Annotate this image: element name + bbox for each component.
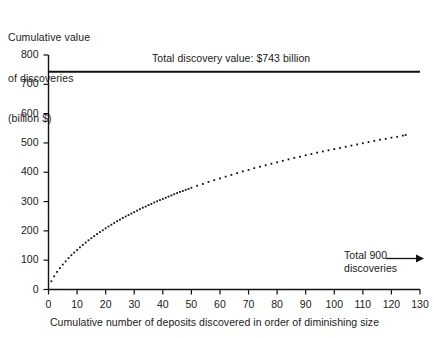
data-point xyxy=(219,178,221,180)
data-point xyxy=(288,158,290,160)
data-point xyxy=(136,210,138,212)
data-point xyxy=(305,154,307,156)
data-point xyxy=(339,147,341,149)
total-discovery-value-annotation: Total discovery value: $743 billion xyxy=(152,52,310,64)
data-point xyxy=(176,192,178,194)
data-point xyxy=(368,141,370,143)
data-point xyxy=(391,137,393,139)
data-point xyxy=(125,216,127,218)
data-point xyxy=(130,213,132,215)
data-point xyxy=(328,149,330,151)
data-point xyxy=(236,172,238,174)
data-point xyxy=(170,195,172,197)
data-point xyxy=(213,179,215,181)
data-point xyxy=(128,214,130,216)
data-point xyxy=(208,181,210,183)
data-point xyxy=(142,207,144,209)
data-point xyxy=(248,169,250,171)
data-point xyxy=(282,160,284,162)
data-point xyxy=(85,242,87,244)
data-point xyxy=(122,217,124,219)
y-axis-tick-label: 400 xyxy=(0,165,39,177)
y-axis-ticks xyxy=(44,55,49,290)
data-point xyxy=(70,254,72,256)
data-point xyxy=(96,233,98,235)
data-point xyxy=(56,271,58,273)
x-axis-title: Cumulative number of deposits discovered… xyxy=(0,316,429,328)
data-point xyxy=(299,156,301,158)
data-point xyxy=(173,193,175,195)
y-axis-tick-label: 100 xyxy=(0,253,39,265)
data-point xyxy=(293,157,295,159)
x-axis-tick-label: 130 xyxy=(400,298,434,310)
data-point xyxy=(265,164,267,166)
y-axis-tick-label: 300 xyxy=(0,195,39,207)
data-point xyxy=(90,237,92,239)
data-point xyxy=(202,183,204,185)
data-point xyxy=(188,188,190,190)
data-point xyxy=(402,135,404,137)
data-point xyxy=(276,161,278,163)
data-point xyxy=(53,275,55,277)
data-point xyxy=(165,197,167,199)
data-point xyxy=(351,145,353,147)
data-point xyxy=(230,174,232,176)
data-point xyxy=(190,187,192,189)
y-axis-tick-label: 600 xyxy=(0,107,39,119)
data-point xyxy=(253,167,255,169)
data-point xyxy=(145,206,147,208)
data-point xyxy=(88,239,90,241)
data-point xyxy=(345,146,347,148)
data-point xyxy=(105,227,107,229)
data-point xyxy=(102,229,104,231)
data-point xyxy=(65,260,67,262)
data-point xyxy=(242,170,244,172)
data-point xyxy=(99,231,101,233)
data-point xyxy=(148,204,150,206)
data-point xyxy=(182,190,184,192)
data-point xyxy=(316,152,318,154)
data-point xyxy=(113,222,115,224)
data-point xyxy=(396,136,398,138)
data-point xyxy=(62,264,64,266)
data-point xyxy=(185,189,187,191)
data-point xyxy=(119,219,121,221)
data-point xyxy=(159,199,161,201)
x-axis-ticks xyxy=(49,290,421,295)
data-point xyxy=(322,151,324,153)
data-point xyxy=(79,246,81,248)
data-point xyxy=(362,142,364,144)
data-point xyxy=(405,134,407,136)
data-point xyxy=(68,257,70,259)
data-point xyxy=(50,280,52,282)
data-point xyxy=(150,203,152,205)
total-discoveries-annotation: Total 900 discoveries xyxy=(344,249,397,274)
data-point xyxy=(179,191,181,193)
data-point xyxy=(133,211,135,213)
data-point xyxy=(82,244,84,246)
data-point xyxy=(259,166,261,168)
data-point xyxy=(379,139,381,141)
data-point xyxy=(110,224,112,226)
data-point xyxy=(156,200,158,202)
data-point xyxy=(76,249,78,251)
y-axis-tick-label: 700 xyxy=(0,77,39,89)
data-point xyxy=(196,185,198,187)
data-point xyxy=(168,196,170,198)
data-point xyxy=(225,176,227,178)
y-axis-tick-label: 500 xyxy=(0,136,39,148)
data-point xyxy=(385,138,387,140)
data-point xyxy=(333,148,335,150)
y-axis-tick-label: 800 xyxy=(0,48,39,60)
data-point xyxy=(59,267,61,269)
y-axis-tick-label: 200 xyxy=(0,224,39,236)
data-point xyxy=(139,208,141,210)
data-point xyxy=(73,252,75,254)
y-axis-tick-label: 0 xyxy=(0,283,39,295)
total-discoveries-line-1: Total 900 xyxy=(344,249,397,262)
total-discoveries-line-2: discoveries xyxy=(344,262,397,275)
data-point xyxy=(93,235,95,237)
data-point xyxy=(116,220,118,222)
